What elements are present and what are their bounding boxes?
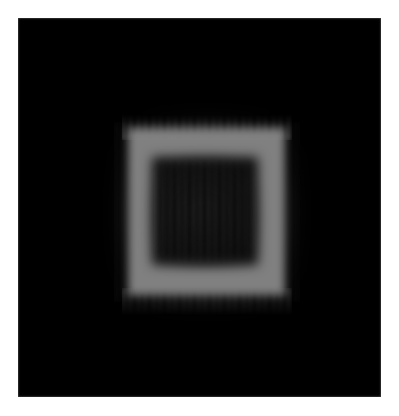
image-canvas	[18, 18, 381, 397]
inner-dark-square	[152, 157, 258, 265]
figure-container	[0, 0, 399, 416]
